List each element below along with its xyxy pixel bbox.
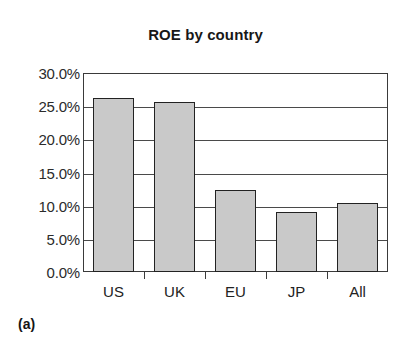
y-axis-tick-label: 10.0%	[2, 197, 80, 214]
bar-slot	[327, 73, 388, 272]
x-axis-category-label: All	[349, 283, 366, 300]
bar-slot	[144, 73, 205, 272]
y-axis-tick-label: 30.0%	[2, 65, 80, 82]
x-axis-category-label: JP	[288, 283, 306, 300]
x-axis-category-label: EU	[225, 283, 246, 300]
bar-jp[interactable]	[276, 212, 316, 272]
y-axis-tick-label: 5.0%	[2, 230, 80, 247]
bar-us[interactable]	[93, 98, 133, 272]
x-axis-tick	[144, 272, 145, 279]
bar-slot	[266, 73, 327, 272]
bar-series	[83, 73, 388, 272]
bar-slot	[205, 73, 266, 272]
x-axis-tick	[205, 272, 206, 279]
y-axis-tick-label: 15.0%	[2, 164, 80, 181]
figure-panel: ROE by country 0.0%5.0%10.0%15.0%20.0%25…	[0, 0, 411, 357]
x-axis-category-label: UK	[164, 283, 185, 300]
y-axis-tick-label: 20.0%	[2, 131, 80, 148]
y-axis-tick-label: 25.0%	[2, 98, 80, 115]
bar-eu[interactable]	[215, 190, 255, 272]
bar-uk[interactable]	[154, 102, 194, 272]
bar-all[interactable]	[337, 203, 377, 272]
x-axis-tick	[266, 272, 267, 279]
panel-caption: (a)	[18, 316, 35, 332]
bar-slot	[83, 73, 144, 272]
y-axis-tick-labels: 0.0%5.0%10.0%15.0%20.0%25.0%30.0%	[0, 0, 80, 357]
y-axis-tick-label: 0.0%	[2, 264, 80, 281]
x-axis: USUKEUJPAll	[83, 272, 388, 332]
x-axis-tick	[327, 272, 328, 279]
x-axis-category-label: US	[103, 283, 124, 300]
